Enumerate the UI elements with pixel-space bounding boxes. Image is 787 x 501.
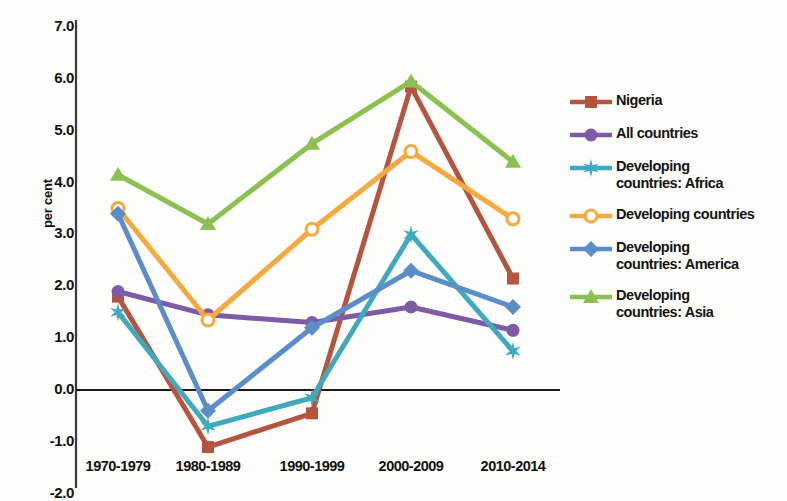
marker-circle <box>112 285 125 298</box>
legend-item[interactable]: Nigeria <box>570 92 785 111</box>
marker-circle-open <box>202 314 214 326</box>
legend-item[interactable]: All countries <box>570 125 785 144</box>
legend-swatch-icon <box>570 207 612 225</box>
legend-swatch-icon <box>570 93 612 111</box>
marker-square <box>507 273 519 285</box>
x-tick-label: 2000-2009 <box>356 458 466 474</box>
legend-label: Developing countries: Asia <box>616 287 713 321</box>
marker-circle-open <box>585 210 597 222</box>
legend-swatch-icon <box>570 159 612 177</box>
marker-circle <box>507 324 520 337</box>
marker-square <box>202 441 214 453</box>
series-line <box>118 214 513 411</box>
legend-item[interactable]: Developing countries: Africa <box>570 158 785 192</box>
marker-circle-open <box>306 223 318 235</box>
legend-swatch-icon <box>570 288 612 306</box>
series-line <box>118 81 513 224</box>
marker-circle-open <box>507 213 519 225</box>
x-tick-label: 1990-1999 <box>257 458 367 474</box>
marker-diamond <box>583 241 599 257</box>
x-tick-label: 1980-1989 <box>153 458 263 474</box>
marker-circle <box>585 129 598 142</box>
legend-item[interactable]: Developing countries <box>570 206 785 225</box>
legend-label: Developing countries: America <box>616 239 739 273</box>
marker-triangle <box>403 73 419 87</box>
marker-square <box>306 407 318 419</box>
x-tick-label: 2010-2014 <box>458 458 568 474</box>
marker-diamond <box>505 299 521 315</box>
marker-square <box>585 96 597 108</box>
chart-legend: NigeriaAll countriesDeveloping countries… <box>570 92 785 335</box>
legend-swatch-icon <box>570 240 612 258</box>
legend-label: All countries <box>616 125 698 142</box>
marker-circle-open <box>405 145 417 157</box>
marker-circle <box>405 301 418 314</box>
legend-label: Developing countries: Africa <box>616 158 723 192</box>
legend-label: Nigeria <box>616 92 662 109</box>
marker-triangle <box>110 167 126 181</box>
legend-item[interactable]: Developing countries: America <box>570 239 785 273</box>
legend-item[interactable]: Developing countries: Asia <box>570 287 785 321</box>
series-5 <box>110 73 521 230</box>
legend-label: Developing countries <box>616 206 754 223</box>
legend-swatch-icon <box>570 126 612 144</box>
